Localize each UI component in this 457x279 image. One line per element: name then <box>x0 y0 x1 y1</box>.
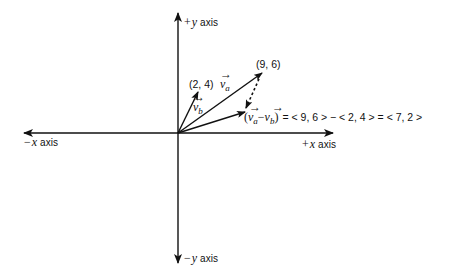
difference-vector-arrow <box>178 112 245 133</box>
vector-va-label: → va <box>220 67 232 93</box>
negative-y-axis-label: −yaxis <box>184 251 218 265</box>
point-label-vb: (2, 4) <box>189 78 214 90</box>
vector-vb-label: → vb <box>193 90 205 116</box>
difference-equation: → → (va−vb)= < 9, 6 > − < 2, 4 > = < 7, … <box>244 100 422 126</box>
difference-equation-text: (va−vb)= < 9, 6 > − < 2, 4 > = < 7, 2 > <box>244 110 422 126</box>
diagram-canvas: +yaxis −yaxis +xaxis −xaxis (9, 6) (2, 4… <box>0 0 457 279</box>
positive-x-axis-label: +xaxis <box>302 137 336 151</box>
positive-y-axis-label: +yaxis <box>184 15 218 29</box>
vector-diagram: +yaxis −yaxis +xaxis −xaxis (9, 6) (2, 4… <box>0 0 457 279</box>
point-label-va: (9, 6) <box>256 58 281 70</box>
negative-x-axis-label: −xaxis <box>24 135 58 149</box>
